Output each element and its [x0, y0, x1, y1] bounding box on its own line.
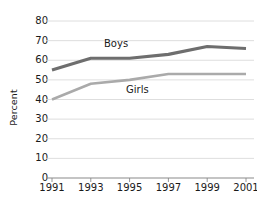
x-axis-tick-label: 2001: [224, 182, 257, 193]
line-chart: Percent 01020304050607080 19911993199519…: [0, 0, 257, 216]
x-axis-tick-label: 1991: [30, 182, 74, 193]
series-label-boys: Boys: [104, 38, 128, 49]
series-label-girls: Girls: [126, 84, 149, 95]
x-axis-tick-label: 1995: [108, 182, 152, 193]
x-axis-tick-label: 1993: [69, 182, 113, 193]
x-axis-tick-label: 1997: [146, 182, 190, 193]
x-axis-tick-label: 1999: [185, 182, 229, 193]
x-axis-tick-labels: 199119931995199719992001: [0, 0, 257, 216]
